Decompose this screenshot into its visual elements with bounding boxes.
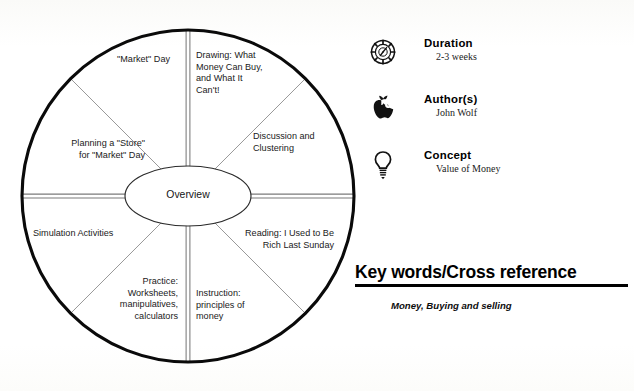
overview-label: Overview [148,189,228,200]
info-value-concept: Value of Money [436,163,500,174]
info-text-concept: Concept Value of Money [424,149,500,174]
info-row-concept: Concept Value of Money [366,148,634,198]
keywords-underline [355,284,628,287]
planning-wheel: Overview "Market" Day Drawing: What Mone… [0,0,380,391]
info-title-concept: Concept [424,149,500,161]
sector-label-planning-store: Planning a "Store" for "Market" Day [28,138,145,161]
clock-icon [368,36,398,68]
sector-label-practice: Practice: Worksheets, manipulatives, cal… [88,276,178,322]
keywords-block: Key words/Cross reference Money, Buying … [355,262,630,311]
info-text-authors: Author(s) John Wolf [424,93,478,118]
apple-icon [368,92,398,124]
unit-planner-page: Overview "Market" Day Drawing: What Mone… [0,0,634,391]
sector-label-simulation: Simulation Activities [33,228,173,240]
info-text-duration: Duration 2-3 weeks [424,37,477,62]
keywords-value: Money, Buying and selling [391,300,630,311]
info-row-authors: Author(s) John Wolf [366,92,634,142]
sector-label-market-day: "Market" Day [78,54,170,66]
sector-label-discussion: Discussion and Clustering [253,131,345,154]
info-title-duration: Duration [424,37,477,49]
keywords-heading: Key words/Cross reference [355,262,630,283]
sector-label-drawing: Drawing: What Money Can Buy, and What It… [196,50,292,96]
info-title-authors: Author(s) [424,93,478,105]
sector-label-instruction: Instruction: principles of money [196,288,286,323]
info-value-authors: John Wolf [436,107,478,118]
lightbulb-icon [368,148,398,180]
info-row-duration: Duration 2-3 weeks [366,36,634,86]
info-value-duration: 2-3 weeks [436,51,477,62]
sector-label-reading: Reading: I Used to Be Rich Last Sunday [212,228,334,251]
info-panel: Duration 2-3 weeks Author(s) John Wolf [366,36,634,206]
